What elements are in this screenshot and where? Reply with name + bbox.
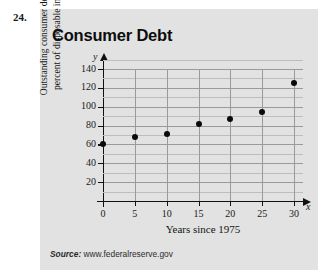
y-tick-label-80: 80 (48, 119, 96, 130)
y-tick-20 (98, 182, 104, 183)
chart-panel: Consumer Debt y x 20406080100120140 0510… (40, 9, 318, 270)
y-tick-140 (98, 69, 104, 70)
x-tick-20 (230, 201, 231, 206)
gridline-y-minor-30 (103, 173, 303, 174)
x-tick-label-10: 10 (154, 208, 180, 219)
y-tick-label-wrap-80: 80 (44, 119, 96, 131)
y-axis-title: Outstanding consumer debt as a percent o… (38, 0, 84, 109)
data-point (100, 141, 106, 147)
y-tick-40 (98, 163, 104, 164)
source-label: Source: (50, 249, 81, 259)
gridline-y-minor-150 (103, 60, 303, 61)
y-tick-label-20: 20 (48, 176, 96, 187)
x-tick-5 (135, 201, 136, 206)
y-tick-label-wrap-40: 40 (44, 157, 96, 169)
gridline-y-140 (103, 69, 303, 70)
y-tick-label-60: 60 (48, 138, 96, 149)
data-point (291, 80, 297, 86)
gridline-x-25 (262, 69, 263, 201)
gridline-x-15 (199, 69, 200, 201)
data-point (196, 121, 202, 127)
gridline-y-20 (103, 182, 303, 183)
y-tick-label-wrap-20: 20 (44, 176, 96, 188)
x-axis-line (97, 201, 305, 202)
x-tick-0 (103, 201, 104, 206)
x-axis-title: Years since 1975 (103, 223, 303, 235)
data-point (164, 131, 170, 137)
x-tick-label-0: 0 (90, 208, 116, 219)
x-tick-10 (167, 201, 168, 206)
y-tick-80 (98, 126, 104, 127)
problem-number: 24. (13, 11, 27, 23)
y-axis-title-line-1: Outstanding consumer debt as a (38, 0, 51, 109)
gridline-y-minor-10 (103, 192, 303, 193)
gridline-y-minor-90 (103, 116, 303, 117)
y-axis-line (103, 60, 104, 207)
gridline-y-minor-130 (103, 78, 303, 79)
gridline-y-40 (103, 163, 303, 164)
data-point (227, 116, 233, 122)
gridline-y-100 (103, 107, 303, 108)
x-tick-label-15: 15 (186, 208, 212, 219)
gridline-y-minor-110 (103, 97, 303, 98)
y-axis-title-line-2: percent of disposable income (51, 0, 64, 109)
data-point (259, 109, 265, 115)
gridline-y-minor-50 (103, 154, 303, 155)
x-tick-25 (262, 201, 263, 206)
x-tick-15 (199, 201, 200, 206)
data-point (132, 134, 138, 140)
x-tick-label-25: 25 (249, 208, 275, 219)
source-note: Source: www.federalreserve.gov (50, 249, 173, 259)
gridline-x-20 (230, 69, 231, 201)
y-axis-variable-label: y (93, 51, 97, 62)
gridline-y-80 (103, 126, 303, 127)
gridline-y-120 (103, 88, 303, 89)
x-tick-label-5: 5 (122, 208, 148, 219)
figure-container: 24. Consumer Debt y x 20406080100120140 … (0, 0, 332, 277)
x-tick-label-20: 20 (217, 208, 243, 219)
source-url: www.federalreserve.gov (84, 249, 173, 259)
y-tick-100 (98, 107, 104, 108)
y-tick-label-wrap-60: 60 (44, 138, 96, 150)
x-tick-label-30: 30 (281, 208, 307, 219)
gridline-x-30 (294, 69, 295, 201)
gridline-y-60 (103, 144, 303, 145)
y-tick-120 (98, 88, 104, 89)
x-tick-30 (294, 201, 295, 206)
y-tick-label-40: 40 (48, 157, 96, 168)
plot-area: y x 20406080100120140 051015202530 Outst… (40, 9, 318, 270)
